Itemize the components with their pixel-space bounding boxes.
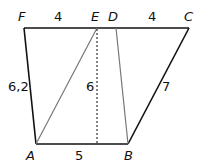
geometry-figure: F E D C A B 4 4 6,2 6 7 5 [0,0,199,166]
vertex-label-D: D [108,9,118,24]
segment-BC [128,28,189,144]
measure-AF: 6,2 [8,79,29,94]
measure-BC: 7 [162,79,170,94]
measure-FE: 4 [54,9,62,24]
measure-height: 6 [86,79,94,94]
measure-DC: 4 [148,9,156,24]
measure-AB: 5 [75,148,83,163]
vertex-label-B: B [124,148,133,163]
vertex-label-E: E [91,9,100,24]
vertex-label-C: C [184,9,194,24]
segment-DB [116,28,128,144]
vertex-label-F: F [18,9,26,24]
vertex-label-A: A [25,148,35,163]
